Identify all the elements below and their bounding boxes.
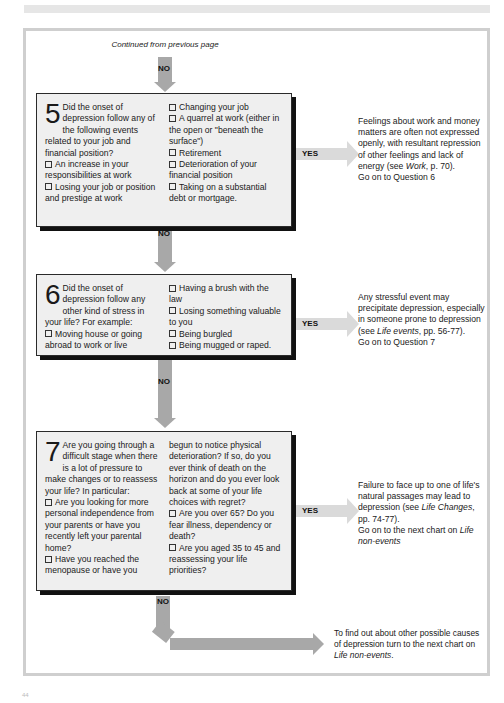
checkbox-icon bbox=[169, 285, 176, 292]
question-7-intro: Are you going through a difficult stage … bbox=[45, 440, 158, 496]
checkbox-icon bbox=[169, 342, 176, 349]
question-7-left-column: 7 Are you going through a difficult stag… bbox=[45, 440, 163, 584]
question-6-left-column: 6 Did the onset of depression follow any… bbox=[45, 283, 163, 349]
question-5-right-column: Changing your job A quarrel at work (eit… bbox=[169, 102, 283, 220]
cross-reference: Life non-events bbox=[334, 650, 391, 660]
cross-reference: Life events bbox=[377, 326, 419, 336]
checklist-item[interactable]: Retirement bbox=[169, 148, 283, 159]
checkbox-icon bbox=[169, 149, 176, 156]
checklist-item[interactable]: Taking on a substantial debt or mortgage… bbox=[169, 182, 283, 205]
checkbox-icon bbox=[169, 544, 176, 551]
continued-label: Continued from previous page bbox=[95, 40, 235, 49]
cross-reference: Work bbox=[406, 161, 426, 171]
outcome-7: Failure to face up to one of life's natu… bbox=[358, 480, 486, 547]
checkbox-icon bbox=[169, 161, 176, 168]
checklist-item[interactable]: Being mugged or raped. bbox=[169, 340, 283, 351]
checkbox-icon bbox=[45, 556, 52, 563]
checklist-item[interactable]: Losing something valuable to you bbox=[169, 306, 283, 329]
top-rule bbox=[24, 5, 490, 13]
checklist-item[interactable]: Having a brush with the law bbox=[169, 283, 283, 306]
no-arrow-head-4 bbox=[313, 633, 324, 655]
checkbox-icon bbox=[169, 307, 176, 314]
checklist-item[interactable]: Moving house or going abroad to work or … bbox=[45, 329, 163, 352]
question-6-number: 6 bbox=[45, 284, 61, 306]
question-6-right-column: Having a brush with the law Losing somet… bbox=[169, 283, 283, 349]
yes-label-7: YES bbox=[302, 506, 318, 515]
question-7-box: 7 Are you going through a difficult stag… bbox=[36, 431, 292, 591]
checkbox-icon bbox=[45, 161, 52, 168]
checklist-item[interactable]: Changing your job bbox=[169, 102, 283, 113]
no-arrow-head-1 bbox=[154, 82, 176, 92]
final-outcome: To find out about other possible causes … bbox=[334, 628, 484, 660]
checkbox-icon bbox=[45, 330, 52, 337]
outcome-6: Any stressful event may precipitate depr… bbox=[358, 292, 486, 348]
question-5-left-column: 5 Did the onset of depression follow any… bbox=[45, 102, 163, 220]
question-7-number: 7 bbox=[45, 441, 61, 463]
checkbox-icon bbox=[169, 510, 176, 517]
question-6-box: 6 Did the onset of depression follow any… bbox=[36, 274, 292, 356]
no-arrow-shaft-3 bbox=[158, 360, 172, 418]
question-5-intro: Did the onset of depression follow any o… bbox=[45, 102, 155, 158]
question-5-number: 5 bbox=[45, 103, 61, 125]
yes-label-5: YES bbox=[302, 149, 318, 158]
cross-reference: Life Changes bbox=[422, 502, 473, 512]
checkbox-icon bbox=[169, 104, 176, 111]
checklist-item[interactable]: Being burgled bbox=[169, 329, 283, 340]
yes-label-6: YES bbox=[302, 319, 318, 328]
no-arrow-head-3 bbox=[154, 418, 176, 428]
no-arrow-horizontal bbox=[170, 638, 314, 650]
checklist-item-continuation: begun to notice physical deterioration? … bbox=[169, 440, 283, 508]
question-7-right-column: begun to notice physical deterioration? … bbox=[169, 440, 283, 584]
checklist-item[interactable]: Are you looking for more personal indepe… bbox=[45, 497, 163, 554]
checklist-item[interactable]: Are you over 65? Do you fear illness, de… bbox=[169, 508, 283, 542]
checkbox-icon bbox=[169, 183, 176, 190]
checklist-item[interactable]: Are you aged 35 to 45 and reassessing yo… bbox=[169, 543, 283, 577]
no-label-3: NO bbox=[158, 377, 170, 386]
checkbox-icon bbox=[45, 499, 52, 506]
page-number: 44 bbox=[22, 692, 29, 698]
next-step: Go on to Question 7 bbox=[358, 337, 435, 347]
no-label-1: NO bbox=[158, 64, 170, 73]
next-step: Go on to Question 6 bbox=[358, 172, 435, 182]
no-arrow-head-2 bbox=[154, 262, 176, 272]
checklist-item[interactable]: Deterioration of your financial position bbox=[169, 159, 283, 182]
checklist-item[interactable]: Have you reached the menopause or have y… bbox=[45, 554, 163, 577]
checkbox-icon bbox=[169, 115, 176, 122]
checklist-item[interactable]: Losing your job or position and prestige… bbox=[45, 182, 163, 205]
checklist-item[interactable]: An increase in your responsibilities at … bbox=[45, 159, 163, 182]
checkbox-icon bbox=[169, 330, 176, 337]
question-5-box: 5 Did the onset of depression follow any… bbox=[36, 93, 292, 227]
checklist-item[interactable]: A quarrel at work (either in the open or… bbox=[169, 113, 283, 147]
outcome-5: Feelings about work and money matters ar… bbox=[358, 116, 486, 183]
no-label-4: NO bbox=[157, 597, 169, 606]
checkbox-icon bbox=[45, 183, 52, 190]
no-label-2: NO bbox=[158, 229, 170, 238]
